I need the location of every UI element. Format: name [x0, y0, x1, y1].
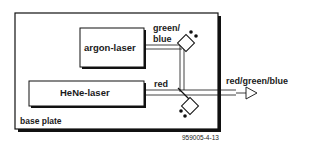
output-beam-label: red/green/blue — [226, 77, 288, 86]
top-mirror-screw-1 — [189, 30, 193, 34]
red-beam-label: red — [154, 80, 168, 89]
bottom-mirror-screw-2 — [183, 114, 187, 118]
green-blue-label-line1: green/ — [153, 24, 180, 33]
top-mirror-screw-2 — [194, 34, 198, 38]
figure-code: 959005-4-13 — [182, 135, 219, 142]
hene-laser-label: HeNe-laser — [60, 88, 110, 98]
green-blue-label-line2: blue — [153, 35, 172, 44]
argon-laser-label: argon-laser — [84, 43, 136, 53]
bottom-mirror-screw-1 — [179, 109, 183, 113]
base-plate-label: base plate — [20, 117, 62, 126]
output-arrow-head-icon — [246, 87, 257, 99]
